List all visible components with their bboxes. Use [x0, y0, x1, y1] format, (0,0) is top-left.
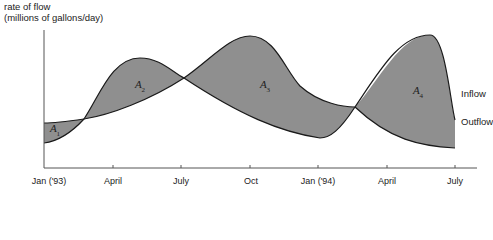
tick-jan-94: Jan ('94): [301, 176, 336, 186]
tick-april-94: April: [378, 176, 396, 186]
area-label-a1: A1: [50, 122, 60, 137]
inflow-label: Inflow: [461, 88, 486, 99]
shaded-area: [44, 35, 455, 148]
tick-july-93: July: [173, 176, 189, 186]
area-label-a2: A2: [135, 78, 145, 93]
tick-april-93: April: [104, 176, 122, 186]
tick-oct-93: Oct: [244, 176, 258, 186]
tick-jan-93: Jan ('93): [32, 176, 67, 186]
tick-july-94: July: [447, 176, 463, 186]
outflow-label: Outflow: [461, 116, 493, 127]
area-label-a4: A4: [413, 84, 423, 99]
area-label-a3: A3: [260, 78, 270, 93]
